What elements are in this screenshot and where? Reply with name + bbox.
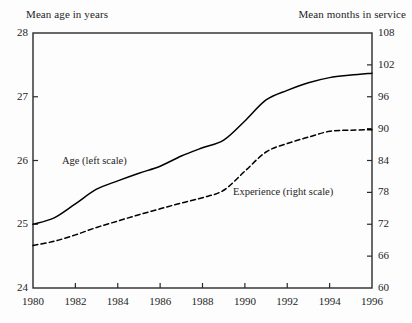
series-label-age: Age (left scale) [62, 155, 127, 166]
tick-label: 108 [378, 26, 404, 38]
tick-label: 26 [6, 154, 28, 166]
tick-label: 78 [378, 185, 404, 197]
axis-ticks [33, 65, 372, 288]
tick-label: 1986 [140, 295, 180, 307]
tick-label: 1982 [55, 295, 95, 307]
tick-label: 1996 [352, 295, 392, 307]
tick-label: 60 [378, 281, 404, 293]
tick-label: 24 [6, 281, 28, 293]
tick-label: 1980 [13, 295, 53, 307]
tick-label: 1992 [267, 295, 307, 307]
tick-label: 66 [378, 249, 404, 261]
tick-label: 102 [378, 58, 404, 70]
tick-label: 1984 [98, 295, 138, 307]
tick-label: 25 [6, 217, 28, 229]
tick-label: 1988 [183, 295, 223, 307]
series-label-experience: Experience (right scale) [233, 186, 333, 197]
tick-label: 28 [6, 26, 28, 38]
chart-figure: Mean age in years Mean months in service… [0, 0, 412, 323]
tick-label: 96 [378, 90, 404, 102]
tick-label: 1994 [310, 295, 350, 307]
tick-label: 72 [378, 217, 404, 229]
tick-label: 84 [378, 154, 404, 166]
tick-label: 90 [378, 122, 404, 134]
tick-label: 27 [6, 90, 28, 102]
tick-label: 1990 [225, 295, 265, 307]
